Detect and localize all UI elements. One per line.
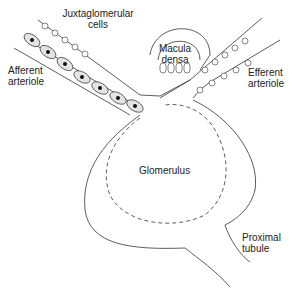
- label-line: arteriole: [248, 78, 284, 89]
- label-line: tubule: [242, 243, 281, 254]
- label-line: Macula: [150, 43, 200, 54]
- label-line: Juxtaglomerular: [58, 8, 138, 19]
- label-macula-densa: Macula densa: [150, 43, 200, 65]
- label-proximal-tubule: Proximal tubule: [242, 232, 281, 254]
- label-line: densa: [150, 54, 200, 65]
- label-efferent: Efferent arteriole: [248, 67, 284, 89]
- label-line: Efferent: [248, 67, 284, 78]
- label-afferent: Afferent arteriole: [8, 65, 44, 87]
- label-line: arteriole: [8, 76, 44, 87]
- label-juxtaglomerular: Juxtaglomerular cells: [58, 8, 138, 30]
- juxtaglomerular-apparatus-diagram: Juxtaglomerular cells Macula densa Affer…: [0, 0, 295, 291]
- label-glomerulus: Glomerulus: [139, 165, 190, 176]
- label-line: Proximal: [242, 232, 281, 243]
- label-line: cells: [58, 19, 138, 30]
- label-line: Afferent: [8, 65, 44, 76]
